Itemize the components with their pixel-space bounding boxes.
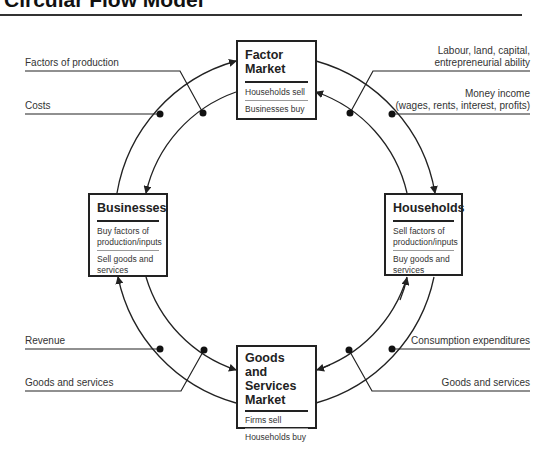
divider	[393, 220, 454, 222]
households-item: Sell factors of production/inputs	[393, 226, 454, 248]
goods-services-market-box: Goods and Services Market Firms sell Hou…	[236, 345, 317, 429]
factor-market-heading-1: Factor	[245, 48, 308, 62]
goods-market-heading-2: Services	[245, 379, 308, 393]
businesses-item: Buy factors of production/inputs	[97, 226, 159, 248]
businesses-box: Businesses Buy factors of production/inp…	[88, 193, 168, 277]
divider	[245, 81, 308, 83]
factor-market-box: Factor Market Households sell Businesses…	[236, 40, 317, 120]
label-revenue: Revenue	[25, 335, 65, 347]
divider	[97, 250, 159, 251]
divider	[393, 250, 454, 251]
factor-market-item: Households sell	[245, 87, 308, 98]
divider	[245, 100, 308, 101]
factor-market-heading-2: Market	[245, 62, 308, 76]
label-consumption-expenditures: Consumption expenditures	[411, 335, 530, 347]
households-heading: Households	[393, 201, 454, 215]
households-item: Buy goods and services	[393, 254, 454, 276]
label-labour-line2: entrepreneurial ability	[434, 57, 530, 69]
arc-bottom-left-outer	[118, 277, 236, 403]
label-goods-and-services-right: Goods and services	[442, 377, 530, 389]
label-money-income-line1: Money income	[465, 88, 530, 100]
divider	[97, 220, 159, 222]
factor-market-item: Businesses buy	[245, 104, 308, 115]
households-box: Households Sell factors of production/in…	[384, 193, 463, 276]
goods-market-heading-3: Market	[245, 393, 308, 407]
goods-market-item: Households buy	[245, 432, 308, 443]
businesses-item: Sell goods and services	[97, 254, 159, 276]
label-factors-of-production: Factors of production	[25, 57, 119, 69]
arc-top-left-outer	[117, 61, 236, 193]
businesses-heading: Businesses	[97, 201, 159, 215]
label-labour-line1: Labour, land, capital,	[438, 45, 530, 57]
arc-top-right-outer	[316, 61, 435, 193]
divider	[245, 428, 308, 429]
label-costs: Costs	[25, 100, 51, 112]
arc-top-right-inner	[316, 92, 407, 193]
goods-market-item: Firms sell	[245, 415, 308, 426]
label-goods-and-services-left: Goods and services	[25, 377, 113, 389]
divider	[245, 410, 308, 412]
goods-market-heading-1: Goods and	[245, 351, 308, 379]
label-money-income-line2: (wages, rents, interest, profits)	[396, 100, 531, 112]
